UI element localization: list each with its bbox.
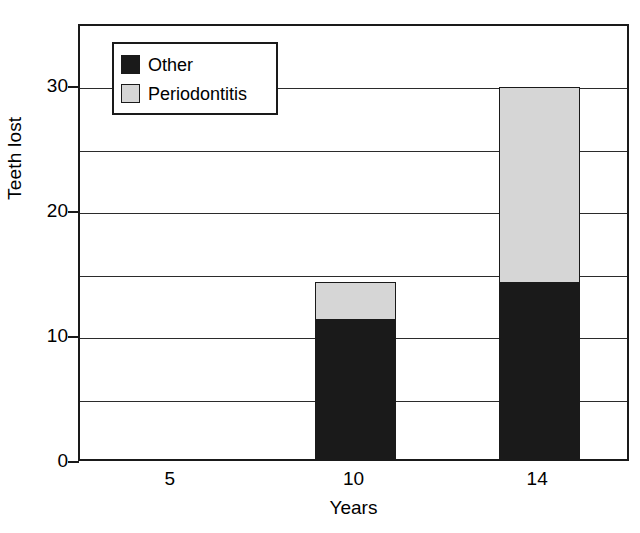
y-tick-label-0: 0 <box>22 451 68 470</box>
legend-label-other: Other <box>148 56 193 74</box>
x-tick-label-10: 10 <box>309 468 399 490</box>
x-axis-title: Years <box>78 497 629 519</box>
y-tick-mark-0 <box>68 461 79 463</box>
bar-segment-10-other[interactable] <box>315 319 396 460</box>
x-tick-label-14: 14 <box>492 468 582 490</box>
legend-label-periodontitis: Periodontitis <box>148 85 247 103</box>
y-tick-label-20: 20 <box>22 201 68 220</box>
bar-group-14[interactable] <box>499 87 580 459</box>
stacked-bar-chart-figure: Teeth lost 0102030 51014 Years Other Per… <box>0 0 640 533</box>
bar-segment-10-periodontitis[interactable] <box>315 282 396 321</box>
bar-segment-14-other[interactable] <box>499 282 580 461</box>
bar-segment-14-periodontitis[interactable] <box>499 87 580 283</box>
legend-swatch-periodontitis-icon <box>121 84 140 103</box>
legend-swatch-other-icon <box>121 55 140 74</box>
legend-item-periodontitis: Periodontitis <box>121 79 269 108</box>
y-axis-tick-labels: 0102030 <box>14 0 68 533</box>
x-axis-tick-labels: 51014 <box>78 468 629 496</box>
y-tick-label-10: 10 <box>22 326 68 345</box>
x-tick-label-5: 5 <box>125 468 215 490</box>
y-tick-label-30: 30 <box>22 76 68 95</box>
bar-group-10[interactable] <box>315 282 396 459</box>
chart-legend: Other Periodontitis <box>112 42 278 115</box>
legend-item-other: Other <box>121 50 269 79</box>
